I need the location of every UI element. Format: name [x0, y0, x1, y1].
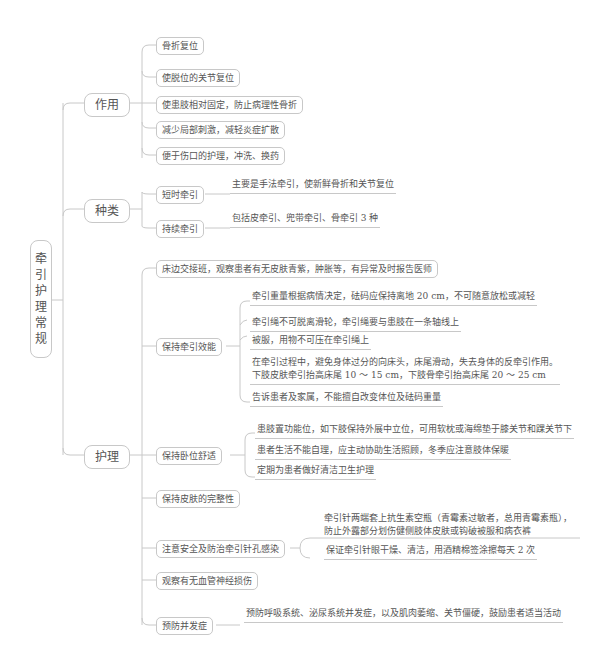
position-detail: 患肢置功能位，如下肢保持外展中立位，可用软枕或海绵垫于膝关节和踝关节下 [255, 423, 574, 439]
branch-effect[interactable]: 作用 [84, 93, 130, 117]
pin-detail-multiline: 牵引针两端套上抗生素空瓶（青霉素过敏者，总用青霉素瓶）， 防止外露部分划伤健侧肢… [322, 512, 574, 540]
complications-detail: 预防呼吸系统、泌尿系统并发症，以及肌肉萎缩、关节僵硬，鼓励患者适当活动 [244, 607, 563, 623]
branch-types[interactable]: 种类 [84, 199, 130, 223]
type-continuous[interactable]: 持续牵引 [156, 220, 204, 238]
traction-detail: 牵引重量根据病情决定，砝码应保持离地 20 cm，不可随意放松或减轻 [250, 290, 537, 306]
traction-detail: 被服，用物不可压在牵引绳上 [250, 334, 371, 350]
position-detail: 定期为患者做好清洁卫生护理 [255, 464, 376, 480]
effect-item[interactable]: 骨折复位 [156, 37, 204, 55]
root-label: 牵引护理常规 [35, 251, 47, 347]
traction-detail: 告诉患者及家属，不能擅自改变体位及砝码重量 [250, 391, 443, 407]
root-node[interactable]: 牵引护理常规 [30, 240, 52, 358]
nursing-item-skin-integrity[interactable]: 保持皮肤的完整性 [156, 490, 240, 508]
nursing-item-traction-efficacy[interactable]: 保持牵引效能 [156, 338, 222, 356]
effect-item[interactable]: 减少局部刺激，减轻炎症扩散 [156, 121, 285, 139]
pin-detail-line-2: 防止外露部分划伤健侧肢体皮肤或钩破被服和病衣裤 [324, 525, 572, 538]
traction-detail-line-2: 下肢皮肤牵引抬高床尾 10 ～ 15 cm，下肢骨牵引抬高床尾 20 ～ 25 … [252, 369, 558, 382]
effect-item[interactable]: 使脱位的关节复位 [156, 69, 240, 87]
traction-detail-line-1: 在牵引过程中，避免身体过分的向床头，床尾滑动，失去身体的反牵引作用。 [252, 356, 558, 369]
nursing-item-pin-infection[interactable]: 注意安全及防治牵引针孔感染 [156, 540, 285, 558]
nursing-item-comfortable-position[interactable]: 保持卧位舒适 [156, 447, 222, 465]
traction-detail: 牵引绳不可脱离滑轮，牵引绳要与患肢在一条轴线上 [250, 316, 461, 332]
pin-detail-line-1: 牵引针两端套上抗生素空瓶（青霉素过敏者，总用青霉素瓶）， [324, 512, 572, 525]
nursing-item-complications[interactable]: 预防并发症 [156, 617, 213, 635]
effect-item[interactable]: 使患肢相对固定，防止病理性骨折 [156, 96, 303, 114]
nursing-item-handover[interactable]: 床边交接班，观察患者有无皮肤青紫，肿胀等，有异常及时报告医师 [156, 260, 438, 278]
traction-detail-multiline: 在牵引过程中，避免身体过分的向床头，床尾滑动，失去身体的反牵引作用。 下肢皮肤牵… [250, 356, 560, 385]
nursing-item-neurovascular[interactable]: 观察有无血管神经损伤 [156, 572, 258, 590]
type-short-term-detail: 主要是手法牵引，使新鲜骨折和关节复位 [230, 178, 396, 194]
type-short-term[interactable]: 短时牵引 [156, 186, 204, 204]
effect-item[interactable]: 便于伤口的护理，冲洗、换药 [156, 147, 285, 165]
branch-nursing[interactable]: 护理 [84, 445, 130, 469]
pin-detail: 保证牵引针眼干燥、清洁，用酒精棉签涂擦每天 2 次 [324, 544, 537, 560]
position-detail: 患者生活不能自理，应主动协助生活照顾，冬季应注意肢体保暖 [255, 444, 511, 460]
type-continuous-detail: 包括皮牵引、兜带牵引、骨牵引 3 种 [230, 212, 380, 228]
